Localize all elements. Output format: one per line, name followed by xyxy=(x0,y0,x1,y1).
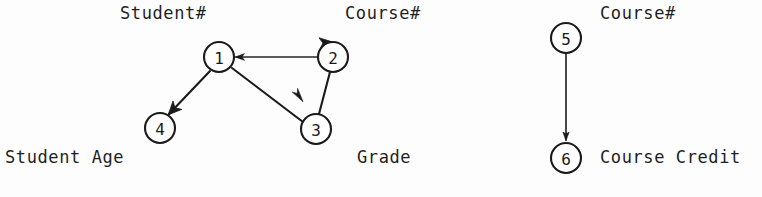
node-1[interactable]: 1 xyxy=(204,42,234,72)
node-2[interactable]: 2 xyxy=(318,42,348,72)
label-student-age: Student Age xyxy=(5,149,124,166)
node-4-label: 4 xyxy=(155,120,165,139)
label-course-number-left: Course# xyxy=(345,5,421,22)
fd-graph-figure: 1 2 3 4 5 6 Student# xyxy=(0,0,762,197)
node-3[interactable]: 3 xyxy=(301,114,331,144)
graph-canvas: 1 2 3 4 5 6 xyxy=(0,0,762,197)
node-3-label: 3 xyxy=(311,121,321,140)
label-student-number: Student# xyxy=(120,5,207,22)
node-6[interactable]: 6 xyxy=(551,143,581,173)
arrowhead-marker-to-3 xyxy=(292,88,305,103)
node-5[interactable]: 5 xyxy=(551,23,581,53)
node-5-label: 5 xyxy=(561,30,571,49)
edge-1-to-4 xyxy=(169,71,210,114)
node-1-label: 1 xyxy=(214,49,224,68)
node-4[interactable]: 4 xyxy=(145,113,175,143)
label-course-number-right: Course# xyxy=(600,5,676,22)
label-course-credit: Course Credit xyxy=(600,149,741,166)
node-6-label: 6 xyxy=(561,150,571,169)
edge-1-to-3 xyxy=(232,68,303,122)
label-grade: Grade xyxy=(357,149,411,166)
node-2-label: 2 xyxy=(328,49,338,68)
edge-2-to-3 xyxy=(319,72,330,114)
